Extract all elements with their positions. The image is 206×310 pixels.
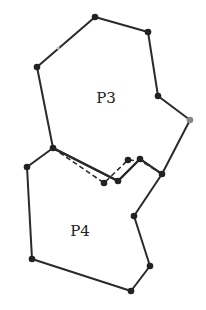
vertex-dot [145,29,152,36]
vertex-dot [29,256,36,263]
polygon-label-p4: P4 [70,222,90,240]
vertex-dot [187,117,194,124]
vertex-dot [115,178,122,185]
vertex-dot [24,164,31,171]
vertex-dot [92,14,99,21]
vertex-dot [137,156,144,163]
vertex-dot [128,288,135,295]
polygon-label-p3: P3 [96,89,116,107]
vertex-dot [131,213,138,220]
dashed-boundary [53,148,162,183]
vertex-dot [34,64,41,71]
vertex-dot [101,180,108,187]
edge-artifact [56,46,59,49]
solid-edges [27,17,190,291]
vertex-dot [155,93,162,100]
vertex-dot [147,263,154,270]
vertex-dot [125,157,132,164]
dashed-line [53,148,162,183]
vertex-dot [159,171,166,178]
vertex-dot [50,145,57,152]
polygon-p4 [27,148,162,291]
polygon-diagram: P3 P4 [0,0,206,310]
